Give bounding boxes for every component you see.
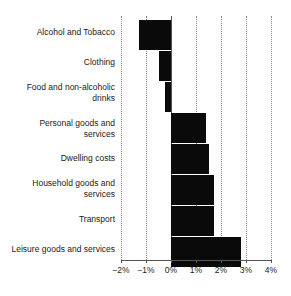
category-label: Food and non-alcoholic drinks <box>27 82 115 103</box>
bar-food-and-non-alcoholic-drinks <box>165 82 171 112</box>
x-tick <box>221 260 222 263</box>
plot-area <box>121 16 271 260</box>
category-label: Dwelling costs <box>61 153 115 164</box>
x-tick <box>146 260 147 263</box>
bar-row <box>121 206 271 236</box>
category-label: Leisure goods and services <box>12 244 115 255</box>
x-tick-label: 3% <box>240 265 252 275</box>
category-label: Household goods and services <box>32 178 115 199</box>
category-label: Clothing <box>84 57 115 68</box>
bar-chart: Alcohol and Tobacco Clothing Food and no… <box>0 0 291 296</box>
x-tick <box>196 260 197 263</box>
x-tick <box>121 260 122 263</box>
bar-leisure-goods-and-services <box>171 237 241 267</box>
gridline-4 <box>271 16 272 260</box>
bar-row <box>121 82 271 112</box>
category-label: Alcohol and Tobacco <box>37 27 115 38</box>
bar-transport <box>171 206 214 236</box>
x-tick-label: 0% <box>165 265 177 275</box>
bar-row <box>121 144 271 174</box>
x-tick <box>171 260 172 263</box>
bar-personal-goods-and-services <box>171 113 206 143</box>
bar-dwelling-costs <box>171 144 209 174</box>
x-tick-label: 2% <box>215 265 227 275</box>
bar-row <box>121 175 271 205</box>
x-tick-label: −2% <box>112 265 129 275</box>
bar-row <box>121 51 271 81</box>
bar-row <box>121 113 271 143</box>
category-label: Transport <box>79 214 115 225</box>
x-tick-label: 4% <box>265 265 277 275</box>
category-label: Personal goods and services <box>39 118 115 139</box>
bar-alcohol-and-tobacco <box>139 20 172 50</box>
x-tick-label: 1% <box>190 265 202 275</box>
x-tick <box>271 260 272 263</box>
bar-clothing <box>159 51 172 81</box>
bar-row <box>121 20 271 50</box>
x-tick-label: −1% <box>137 265 154 275</box>
bar-household-goods-and-services <box>171 175 214 205</box>
x-tick <box>246 260 247 263</box>
